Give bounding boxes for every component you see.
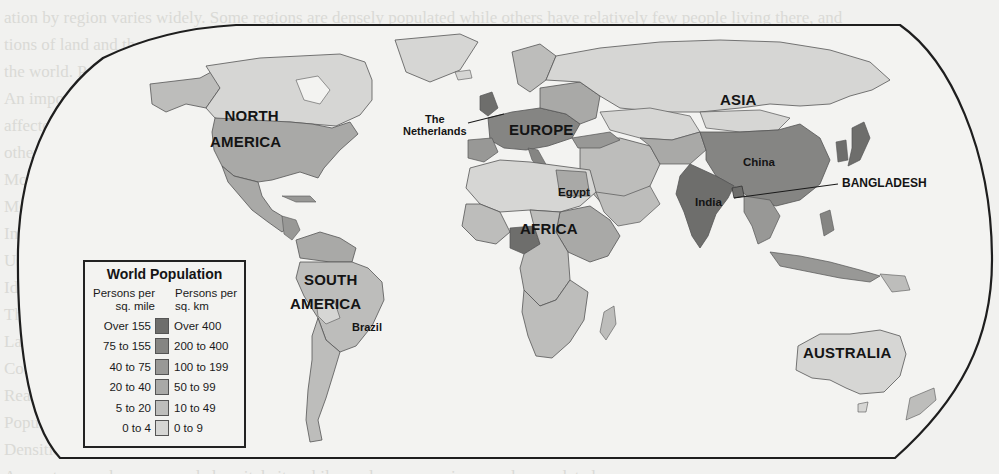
legend-row: 75 to 155 200 to 400 xyxy=(89,336,240,357)
region-korea xyxy=(836,140,848,162)
legend-header-sq-km-line2: sq. km xyxy=(175,300,237,313)
legend-swatch xyxy=(155,379,169,395)
legend-sq-km-value: 0 to 9 xyxy=(174,422,203,434)
legend-header-sq-mile-line2: sq. mile xyxy=(89,300,155,313)
label-bangladesh: BANGLADESH xyxy=(842,177,927,190)
legend-sq-km-value: 100 to 199 xyxy=(174,361,228,373)
legend-sq-km-value: 10 to 49 xyxy=(174,402,216,414)
legend-swatch xyxy=(155,338,169,354)
legend-sq-mile-value: 75 to 155 xyxy=(89,340,155,352)
label-america: AMERICA xyxy=(210,134,281,150)
legend-row: 20 to 40 50 to 99 xyxy=(89,377,240,398)
label-south: SOUTH xyxy=(300,272,361,288)
legend-swatch xyxy=(155,318,169,334)
textbook-page: ation by region varies widely. Some regi… xyxy=(0,0,999,474)
label-australia: AUSTRALIA xyxy=(803,345,891,361)
map-legend: World Population Persons per sq. mile Pe… xyxy=(83,260,246,448)
label-north: NORTH xyxy=(222,108,281,124)
legend-row: 5 to 20 10 to 49 xyxy=(89,397,240,418)
legend-row: 0 to 4 0 to 9 xyxy=(89,418,240,439)
label-south-america: SOUTH AMERICA xyxy=(300,272,361,312)
region-iceland xyxy=(455,70,472,80)
legend-swatch xyxy=(155,359,169,375)
legend-header-sq-mile-line1: Persons per xyxy=(89,287,155,300)
legend-sq-km-value: 200 to 400 xyxy=(174,340,228,352)
legend-row: Over 155 Over 400 xyxy=(89,315,240,336)
label-africa: AFRICA xyxy=(520,221,578,237)
legend-header-sq-km-line1: Persons per xyxy=(175,287,237,300)
legend-swatch xyxy=(155,420,169,436)
region-tasmania xyxy=(858,402,868,412)
label-asia: ASIA xyxy=(720,92,757,108)
legend-header-sq-km: Persons per sq. km xyxy=(175,287,237,312)
legend-sq-mile-value: 0 to 4 xyxy=(89,422,155,434)
legend-sq-mile-value: 40 to 75 xyxy=(89,361,155,373)
legend-sq-mile-value: 20 to 40 xyxy=(89,381,155,393)
legend-sq-mile-value: 5 to 20 xyxy=(89,402,155,414)
label-brazil: Brazil xyxy=(352,322,382,334)
legend-sq-mile-value: Over 155 xyxy=(89,320,155,332)
label-north-america: NORTH AMERICA xyxy=(222,108,281,150)
label-china: China xyxy=(743,156,775,168)
legend-sq-km-value: Over 400 xyxy=(174,320,221,332)
legend-rows: Over 155 Over 400 75 to 155 200 to 400 4… xyxy=(89,315,240,438)
region-bangladesh xyxy=(732,186,744,198)
label-the: The xyxy=(403,114,467,126)
legend-row: 40 to 75 100 to 199 xyxy=(89,356,240,377)
label-egypt: Egypt xyxy=(558,186,590,198)
legend-headers: Persons per sq. mile Persons per sq. km xyxy=(89,287,240,312)
label-america-south: AMERICA xyxy=(290,296,361,312)
label-india: India xyxy=(695,196,722,208)
legend-swatch xyxy=(155,400,169,416)
label-europe: EUROPE xyxy=(509,122,574,138)
legend-title: World Population xyxy=(89,266,240,282)
label-netherlands: Netherlands xyxy=(403,126,467,138)
legend-header-sq-mile: Persons per sq. mile xyxy=(89,287,155,312)
legend-sq-km-value: 50 to 99 xyxy=(174,381,216,393)
label-the-netherlands: The Netherlands xyxy=(403,114,467,137)
